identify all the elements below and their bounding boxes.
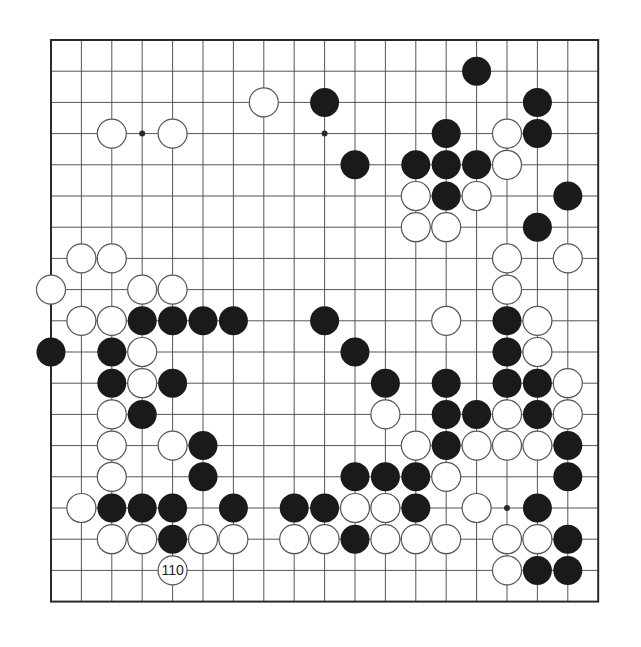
white-stone (310, 525, 339, 554)
black-stone (462, 57, 491, 86)
white-stone (97, 462, 126, 491)
white-stone (493, 119, 522, 148)
white-stone (189, 525, 218, 554)
black-stone (523, 369, 552, 398)
white-stone (158, 275, 187, 304)
black-stone (128, 400, 157, 429)
black-stone (523, 119, 552, 148)
white-stone (493, 400, 522, 429)
white-stone (523, 431, 552, 460)
white-stone (401, 213, 430, 242)
white-stone (432, 525, 461, 554)
black-stone (553, 525, 582, 554)
black-stone (523, 556, 552, 585)
white-stone (493, 525, 522, 554)
white-stone (462, 431, 491, 460)
white-stone (249, 88, 278, 117)
black-stone (97, 338, 126, 367)
white-stone (219, 525, 248, 554)
white-stone (67, 244, 96, 273)
black-stone (432, 182, 461, 211)
white-stone (432, 462, 461, 491)
black-stone (341, 338, 370, 367)
black-stone (341, 462, 370, 491)
white-stone (432, 213, 461, 242)
black-stone (158, 306, 187, 335)
star-point (139, 131, 145, 137)
white-stone (401, 182, 430, 211)
white-stone (371, 525, 400, 554)
white-stone (67, 306, 96, 335)
black-stone (37, 338, 66, 367)
white-stone (97, 525, 126, 554)
star-point (322, 131, 328, 137)
black-stone (401, 150, 430, 179)
black-stone (97, 369, 126, 398)
white-stone (371, 494, 400, 523)
white-stone (493, 431, 522, 460)
black-stone (553, 431, 582, 460)
white-stone (462, 494, 491, 523)
white-stone (97, 306, 126, 335)
white-stone (128, 369, 157, 398)
black-stone (432, 150, 461, 179)
black-stone (189, 431, 218, 460)
white-stone (97, 244, 126, 273)
white-stone (97, 400, 126, 429)
black-stone (189, 462, 218, 491)
white-stone (371, 400, 400, 429)
star-point (504, 505, 510, 511)
white-stone (462, 182, 491, 211)
black-stone (128, 306, 157, 335)
black-stone (523, 88, 552, 117)
white-stone (523, 525, 552, 554)
black-stone (310, 306, 339, 335)
black-stone (280, 494, 309, 523)
white-stone (523, 338, 552, 367)
white-stone (493, 275, 522, 304)
white-stone (523, 306, 552, 335)
black-stone (553, 182, 582, 211)
black-stone (493, 369, 522, 398)
black-stone (341, 525, 370, 554)
white-stone (401, 431, 430, 460)
white-stone (493, 556, 522, 585)
white-stone (553, 400, 582, 429)
black-stone (553, 556, 582, 585)
black-stone (401, 462, 430, 491)
white-stone (128, 525, 157, 554)
white-stone (493, 150, 522, 179)
white-stone (128, 275, 157, 304)
black-stone (493, 306, 522, 335)
white-stone (37, 275, 66, 304)
white-stone (67, 494, 96, 523)
black-stone (493, 338, 522, 367)
go-board: 110 (0, 0, 641, 647)
black-stone (158, 369, 187, 398)
white-stone (280, 525, 309, 554)
black-stone (371, 462, 400, 491)
black-stone (432, 369, 461, 398)
black-stone (401, 494, 430, 523)
black-stone (158, 494, 187, 523)
white-stone (158, 119, 187, 148)
black-stone (189, 306, 218, 335)
white-stone (553, 369, 582, 398)
black-stone (219, 494, 248, 523)
black-stone (432, 431, 461, 460)
white-stone (158, 431, 187, 460)
white-stone (432, 306, 461, 335)
white-stone (493, 244, 522, 273)
white-stone (97, 431, 126, 460)
black-stone (310, 88, 339, 117)
black-stone (219, 306, 248, 335)
labeled-stones: 110 (158, 556, 187, 585)
black-stone (523, 400, 552, 429)
black-stone (462, 150, 491, 179)
white-stone (553, 244, 582, 273)
white-stone (97, 119, 126, 148)
white-stone (341, 494, 370, 523)
black-stone (371, 369, 400, 398)
black-stone (128, 494, 157, 523)
black-stone (97, 494, 126, 523)
